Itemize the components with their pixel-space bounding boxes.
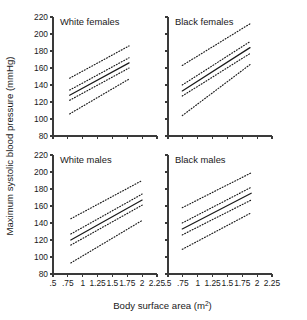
panel-axes-black-females	[168, 17, 272, 136]
y-tick-label-white-females-1: 200	[34, 29, 48, 39]
x-tick-label-white-males-0: .5	[50, 278, 57, 288]
x-axis-title-tail: )	[209, 300, 212, 311]
x-tick-label-black-males-6: 2	[255, 278, 260, 288]
x-tick-label-black-males-0: .5	[165, 278, 172, 288]
y-tick-label-white-males-1: 200	[34, 167, 48, 177]
x-tick-label-black-males-7: 2.25	[264, 278, 281, 288]
x-tick-label-white-males-2: 1	[80, 278, 85, 288]
panel-axes-black-males	[168, 155, 272, 274]
y-tick-label-white-females-0: 220	[34, 12, 48, 22]
x-tick-label-white-males-1: .75	[62, 278, 74, 288]
x-tick-label-white-males-4: 1.5	[107, 278, 119, 288]
series-pi-upper-black-females	[182, 24, 250, 66]
y-tick-label-white-females-6: 100	[34, 114, 48, 124]
series-fit-black-females	[182, 48, 250, 91]
y-tick-label-white-females-3: 160	[34, 63, 48, 73]
y-tick-label-white-males-7: 80	[39, 269, 49, 279]
chart-svg: 22020018016014012010080White femalesBlac…	[0, 0, 307, 320]
series-fit-white-males	[71, 200, 142, 240]
x-tick-label-black-males-5: 1.75	[234, 278, 251, 288]
y-axis-title: Maximum systolic blood pressure (mmHg)	[4, 56, 15, 235]
series-pi-upper-black-males	[182, 173, 251, 208]
panel-black-females: Black females	[165, 16, 272, 139]
y-tick-label-white-males-5: 120	[34, 235, 48, 245]
series-ci-upper-black-females	[182, 42, 250, 85]
x-tick-label-black-males-4: 1.5	[222, 278, 234, 288]
series-ci-lower-white-males	[71, 205, 142, 245]
panel-title-black-females: Black females	[175, 16, 234, 27]
x-tick-label-black-males-2: 1	[195, 278, 200, 288]
x-tick-label-white-males-7: 2.25	[149, 278, 166, 288]
y-tick-label-white-females-4: 140	[34, 80, 48, 90]
x-axis-title: Body surface area (m2)	[113, 300, 212, 311]
figure-panel-grid: 22020018016014012010080White femalesBlac…	[0, 0, 307, 320]
panel-white-males: 22020018016014012010080.5.7511.251.51.75…	[34, 150, 165, 288]
series-pi-lower-white-males	[71, 220, 142, 263]
y-tick-label-white-males-3: 160	[34, 201, 48, 211]
series-fit-white-females	[70, 63, 129, 95]
panel-title-black-males: Black males	[175, 154, 226, 165]
series-fit-black-males	[182, 193, 251, 229]
x-tick-label-black-males-1: .75	[177, 278, 189, 288]
x-tick-label-white-males-6: 2	[140, 278, 145, 288]
panel-white-females: 22020018016014012010080White females	[34, 12, 157, 141]
x-tick-label-white-males-5: 1.75	[119, 278, 136, 288]
x-tick-label-white-males-3: 1.25	[89, 278, 106, 288]
panel-title-white-males: White males	[60, 154, 112, 165]
y-tick-label-white-females-7: 80	[39, 131, 49, 141]
x-tick-label-black-males-3: 1.25	[204, 278, 221, 288]
panel-title-white-females: White females	[60, 16, 120, 27]
y-tick-label-white-females-5: 120	[34, 97, 48, 107]
y-tick-label-white-males-0: 220	[34, 150, 48, 160]
y-tick-label-white-males-4: 140	[34, 218, 48, 228]
y-tick-label-white-males-6: 100	[34, 252, 48, 262]
y-tick-label-white-females-2: 180	[34, 46, 48, 56]
panel-black-males: .5.7511.251.51.7522.25Black males	[165, 154, 281, 288]
y-tick-label-white-males-2: 180	[34, 184, 48, 194]
